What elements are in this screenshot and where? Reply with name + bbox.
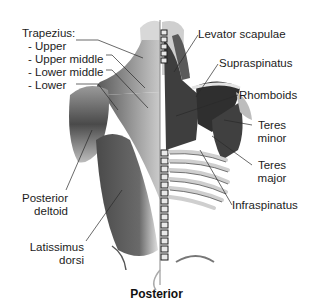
label-latissimus-dorsi: Latissimus dorsi [22,241,84,267]
ribs [170,152,228,208]
label-supraspinatus: Supraspinatus [219,57,293,70]
label-posterior-deltoid-line2: deltoid [14,205,68,218]
label-trapezius-upper-middle: - Upper middle [28,53,103,66]
label-trapezius-heading: Trapezius: [22,27,75,40]
label-latissimus-dorsi-line2: dorsi [22,254,84,267]
diagram-caption: Posterior [0,287,313,301]
label-teres-major-line2: major [254,172,290,185]
label-trapezius-lower: - Lower [28,79,66,92]
anatomy-diagram: Trapezius: - Upper - Upper middle - Lowe… [0,0,313,308]
label-teres-minor: Teres minor [254,119,290,145]
label-posterior-deltoid: Posterior deltoid [14,192,68,218]
label-trapezius-lower-middle: - Lower middle [28,66,103,79]
label-teres-minor-line2: minor [254,132,290,145]
trapezius-upper [97,40,160,95]
label-infraspinatus: Infraspinatus [232,199,298,212]
label-trapezius-upper: - Upper [28,40,66,53]
label-teres-major: Teres major [254,159,290,185]
label-latissimus-dorsi-line1: Latissimus [22,241,84,254]
label-teres-minor-line1: Teres [254,119,290,132]
label-teres-major-line1: Teres [254,159,290,172]
label-levator-scapulae: Levator scapulae [198,28,286,41]
label-rhomboids: Rhomboids [239,89,297,102]
label-posterior-deltoid-line1: Posterior [14,192,68,205]
